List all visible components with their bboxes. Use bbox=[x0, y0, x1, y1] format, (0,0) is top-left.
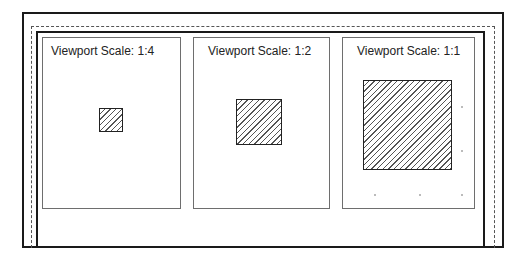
grid-dot bbox=[374, 194, 376, 196]
grid-dot bbox=[461, 194, 463, 196]
grid-dot bbox=[419, 194, 421, 196]
viewport-1-1[interactable]: Viewport Scale: 1:1 bbox=[342, 37, 475, 209]
hatched-square-medium bbox=[236, 99, 282, 145]
viewport-1-4[interactable]: Viewport Scale: 1:4 bbox=[42, 37, 181, 209]
viewport-title: Viewport Scale: 1:1 bbox=[343, 44, 474, 58]
hatched-square-small bbox=[99, 108, 123, 132]
viewport-title: Viewport Scale: 1:2 bbox=[194, 44, 329, 58]
grid-dot bbox=[461, 106, 463, 108]
viewport-title: Viewport Scale: 1:4 bbox=[43, 44, 180, 58]
hatched-square-large bbox=[363, 80, 452, 170]
grid-dot bbox=[461, 150, 463, 152]
viewport-1-2[interactable]: Viewport Scale: 1:2 bbox=[193, 37, 330, 209]
